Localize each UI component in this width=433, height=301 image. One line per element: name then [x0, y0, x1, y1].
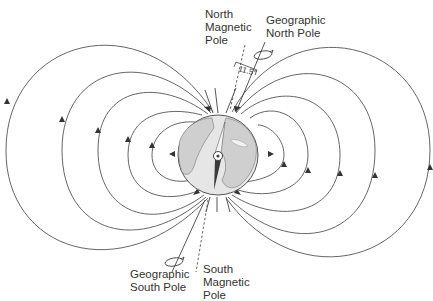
geographic-north-pole-label: Geographic North Pole — [266, 14, 325, 40]
south-convergence-lines — [206, 197, 230, 212]
south-magnetic-pole-label: South Magnetic Pole — [203, 263, 250, 301]
geographic-south-pole-label: Geographic South Pole — [130, 268, 189, 294]
magnetic-field-diagram: 11.5° North Magnetic Pole Geographic Nor… — [0, 0, 433, 301]
north-magnetic-pole-label: North Magnetic Pole — [205, 8, 252, 47]
tilt-angle-label: 11.5° — [237, 64, 257, 77]
